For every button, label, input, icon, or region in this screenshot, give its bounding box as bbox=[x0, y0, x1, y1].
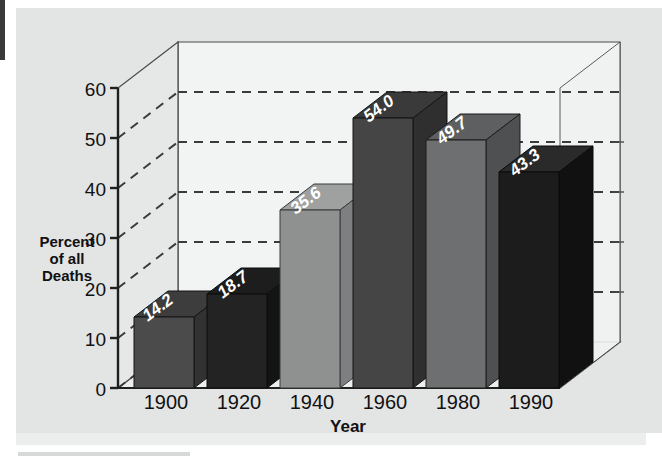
x-axis-title: Year bbox=[330, 417, 366, 436]
bar-front-1900 bbox=[134, 317, 194, 388]
bar-front-1920 bbox=[207, 294, 267, 388]
bar-front-1960 bbox=[353, 118, 413, 388]
y-tick-label-40: 40 bbox=[85, 179, 106, 200]
y-tick-label-10: 10 bbox=[85, 329, 106, 350]
x-tick-label-1980: 1980 bbox=[436, 391, 481, 413]
bar-front-1980 bbox=[426, 140, 486, 388]
bar-group-1990[interactable]: 43.3 bbox=[499, 145, 593, 388]
bar-chart-3d: 0 10 20 30 40 50 60 14.2 bbox=[0, 0, 662, 469]
y-tick-label-0: 0 bbox=[95, 379, 106, 400]
bar-front-1940 bbox=[280, 210, 340, 388]
y-tick-label-30: 30 bbox=[85, 229, 106, 250]
y-tick-label-50: 50 bbox=[85, 129, 106, 150]
x-tick-label-1900: 1900 bbox=[144, 391, 189, 413]
x-tick-label-1990: 1990 bbox=[509, 391, 554, 413]
bar-side-1990 bbox=[559, 146, 593, 388]
x-tick-label-1940: 1940 bbox=[290, 391, 335, 413]
figure-root: Percent of all Deaths bbox=[0, 0, 662, 469]
y-tick-label-60: 60 bbox=[85, 79, 106, 100]
y-tick-label-20: 20 bbox=[85, 279, 106, 300]
x-tick-label-1960: 1960 bbox=[363, 391, 408, 413]
bar-front-1990 bbox=[499, 172, 559, 388]
x-tick-label-1920: 1920 bbox=[217, 391, 262, 413]
